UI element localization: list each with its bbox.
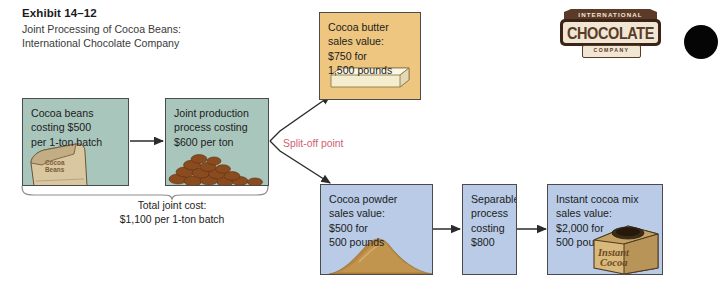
logo-plate: CHOCOLATE [560,19,661,46]
total-joint-cost-brace [22,186,268,199]
total-joint-cost-label: Total joint cost: $1,100 per 1-ton batch [72,199,272,227]
exhibit-subtitle: Joint Processing of Cocoa Beans: Interna… [22,23,212,50]
box-cocoa-butter-text: Cocoa butter sales value: $750 for 1,500… [320,13,420,78]
instant-cocoa-tin-icon: Instant Cocoa [588,218,660,274]
box-cocoa-beans[interactable]: Cocoa beans costing $500 per 1-ton batch… [22,98,129,186]
box-instant-cocoa-mix[interactable]: Instant cocoa mix sales value: $2,000 fo… [547,184,663,275]
box-separable-process-text: Separable process costing $800 [463,185,516,250]
exhibit-caption: Exhibit 14–12 Joint Processing of Cocoa … [22,6,212,50]
box-cocoa-powder[interactable]: Cocoa powder sales value: $500 for 500 p… [320,184,433,275]
cocoa-beans-pile-icon [166,145,269,185]
box-joint-process[interactable]: Joint production process costing $600 pe… [165,98,269,186]
logo-banner-text: INTERNATIONAL [564,11,657,18]
arrow-process-to-butter [270,96,330,141]
box-cocoa-butter[interactable]: Cocoa butter sales value: $750 for 1,500… [319,12,421,100]
logo-plate-inner: CHOCOLATE [563,22,658,43]
logo-ribbon: COMPANY [582,45,641,58]
box-joint-process-text: Joint production process costing $600 pe… [166,99,268,149]
svg-text:Beans: Beans [45,166,65,173]
exhibit-title: Exhibit 14–12 [22,6,212,20]
box-cocoa-powder-text: Cocoa powder sales value: $500 for 500 p… [321,185,432,250]
page-edge-dot [684,25,718,59]
svg-text:Cocoa: Cocoa [45,159,65,166]
international-chocolate-company-logo: INTERNATIONAL CHOCOLATE COMPANY [560,9,661,59]
split-off-point-label: Split-off point [283,138,343,149]
box-separable-process[interactable]: Separable process costing $800 [462,184,517,275]
logo-ribbon-text: COMPANY [583,47,640,53]
box-cocoa-beans-text: Cocoa beans costing $500 per 1-ton batch [23,99,128,149]
logo-main-text: CHOCOLATE [563,24,658,42]
tin-label-line2: Cocoa [600,257,627,268]
